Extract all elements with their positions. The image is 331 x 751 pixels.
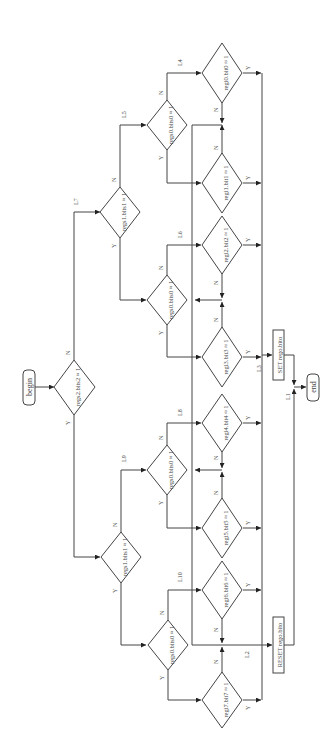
svg-text:N: N bbox=[213, 107, 219, 112]
decision-regs0-bits0-L6: regs0.bits0 ≈ 1 bbox=[147, 275, 187, 325]
svg-text:L10: L10 bbox=[177, 572, 183, 582]
svg-text:Y: Y bbox=[245, 65, 251, 70]
decision-bit0: regi0.bit0 ≈ 1 bbox=[202, 43, 242, 103]
svg-text:N: N bbox=[111, 177, 117, 182]
svg-text:regs0.bits0 ≈ 1: regs0.bits0 ≈ 1 bbox=[167, 281, 174, 319]
svg-text:Y: Y bbox=[158, 330, 164, 335]
svg-text:N: N bbox=[65, 350, 71, 355]
svg-text:Y: Y bbox=[65, 420, 71, 425]
svg-text:N: N bbox=[158, 435, 164, 440]
svg-text:Y: Y bbox=[245, 349, 251, 354]
svg-text:Y: Y bbox=[245, 415, 251, 420]
svg-text:N: N bbox=[112, 522, 118, 527]
svg-text:Y: Y bbox=[245, 705, 251, 710]
svg-text:regs1.bits1 ≈ 1: regs1.bits1 ≈ 1 bbox=[120, 193, 127, 231]
set-label: SET rego.bito bbox=[276, 337, 283, 373]
svg-text:regs2.bits2 ≈ 1: regs2.bits2 ≈ 1 bbox=[74, 368, 81, 406]
svg-text:regi1.bit1 ≈ 1: regi1.bit1 ≈ 1 bbox=[222, 165, 229, 200]
decision-regs0-bits0-L5: regs0.bits0 ≈ 1 bbox=[147, 100, 187, 150]
svg-text:N: N bbox=[213, 280, 219, 285]
begin-terminal: begin bbox=[23, 370, 35, 405]
reset-process: RESET rego.bito bbox=[273, 617, 284, 673]
svg-text:regs1.bits1 ≈ 1: regs1.bits1 ≈ 1 bbox=[121, 538, 128, 576]
svg-text:N: N bbox=[213, 490, 219, 495]
decision-bit3: regi3.bit3 ≈ 1 bbox=[202, 327, 242, 387]
svg-text:Y: Y bbox=[158, 500, 164, 505]
svg-text:Y: Y bbox=[111, 243, 117, 248]
decision-regs0-bits0-L9: regs0.bits0 ≈ 1 bbox=[147, 445, 187, 495]
end-label: end bbox=[309, 381, 318, 393]
decision-regs2-bits2: regs2.bits2 ≈ 1 bbox=[54, 360, 95, 415]
decision-bit2: regi2.bit2 ≈ 1 bbox=[202, 216, 242, 274]
decision-bit7: regi7.bit7 ≈ 1 bbox=[202, 672, 242, 728]
svg-text:N: N bbox=[213, 317, 219, 322]
svg-text:Y: Y bbox=[158, 155, 164, 160]
svg-text:L6: L6 bbox=[177, 231, 183, 238]
svg-text:Y: Y bbox=[159, 675, 165, 680]
svg-text:regs0.bits0 ≈ 1: regs0.bits0 ≈ 1 bbox=[167, 106, 174, 144]
svg-text:N: N bbox=[213, 145, 219, 150]
svg-text:regi5.bit5 ≈ 1: regi5.bit5 ≈ 1 bbox=[222, 510, 229, 545]
decision-bit6: regi6.bit6 ≈ 1 bbox=[202, 561, 242, 619]
svg-text:L8: L8 bbox=[177, 409, 183, 416]
reset-label: RESET rego.bito bbox=[276, 623, 283, 668]
line-labels: L7 L5 L4 L6 L9 L8 L10 L3 L2 L1 bbox=[73, 59, 291, 658]
svg-text:regi0.bit0 ≈ 1: regi0.bit0 ≈ 1 bbox=[222, 55, 229, 90]
svg-text:L3: L3 bbox=[256, 365, 262, 372]
decision-regs1-bits1-a: regs1.bits1 ≈ 1 bbox=[100, 187, 140, 238]
decision-bit4: regi4.bit4 ≈ 1 bbox=[202, 394, 242, 452]
svg-text:N: N bbox=[213, 627, 219, 632]
decision-regs0-bits0-L10: regs0.bits0 ≈ 1 bbox=[148, 620, 188, 670]
svg-text:regi7.bit7 ≈ 1: regi7.bit7 ≈ 1 bbox=[222, 682, 229, 717]
svg-text:L4: L4 bbox=[177, 59, 183, 66]
svg-text:N: N bbox=[158, 90, 164, 95]
svg-text:L7: L7 bbox=[73, 198, 79, 205]
svg-text:regi2.bit2 ≈ 1: regi2.bit2 ≈ 1 bbox=[222, 227, 229, 262]
svg-text:L9: L9 bbox=[121, 455, 127, 462]
decision-regs1-bits1-b: regs1.bits1 ≈ 1 bbox=[101, 532, 141, 583]
svg-text:N: N bbox=[158, 265, 164, 270]
decision-bit5: regi5.bit5 ≈ 1 bbox=[202, 498, 242, 558]
svg-text:Y: Y bbox=[245, 175, 251, 180]
svg-text:regs0.bits0 ≈ 1: regs0.bits0 ≈ 1 bbox=[168, 626, 175, 664]
svg-text:L1: L1 bbox=[285, 393, 291, 400]
svg-text:regi3.bit3 ≈ 1: regi3.bit3 ≈ 1 bbox=[222, 339, 229, 374]
end-terminal: end bbox=[307, 374, 319, 401]
svg-text:L5: L5 bbox=[121, 111, 127, 118]
svg-text:Y: Y bbox=[245, 520, 251, 525]
decision-bit1: regi1.bit1 ≈ 1 bbox=[202, 153, 242, 213]
begin-label: begin bbox=[25, 378, 34, 396]
svg-text:N: N bbox=[213, 659, 219, 664]
svg-text:Y: Y bbox=[245, 237, 251, 242]
flowchart: begin end SET rego.bito RESET rego.bito … bbox=[0, 0, 331, 751]
svg-text:N: N bbox=[213, 455, 219, 460]
svg-text:regi4.bit4 ≈ 1: regi4.bit4 ≈ 1 bbox=[222, 405, 229, 440]
svg-text:Y: Y bbox=[245, 582, 251, 587]
svg-text:regs0.bits0 ≈ 1: regs0.bits0 ≈ 1 bbox=[167, 451, 174, 489]
svg-text:regi6.bit6 ≈ 1: regi6.bit6 ≈ 1 bbox=[222, 572, 229, 607]
svg-text:N: N bbox=[159, 610, 165, 615]
svg-text:L2: L2 bbox=[244, 651, 250, 658]
svg-text:Y: Y bbox=[112, 588, 118, 593]
set-process: SET rego.bito bbox=[273, 330, 284, 380]
